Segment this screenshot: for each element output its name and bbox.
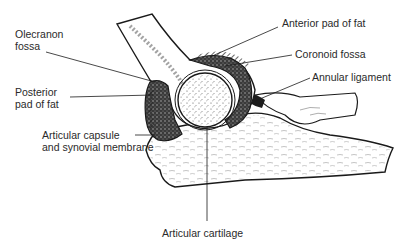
label-annular-ligament: Annular ligament xyxy=(312,71,391,83)
label-anterior-pad-line1: Anterior pad of fat xyxy=(282,17,365,29)
ulna-bone xyxy=(146,113,393,187)
label-coronoid-fossa-line1: Coronoid fossa xyxy=(295,48,366,60)
label-posterior-pad-line1: Posterior xyxy=(15,86,59,98)
label-articular-cartilage-line1: Articular cartilage xyxy=(162,227,243,239)
leader-anterior-pad xyxy=(210,27,278,57)
leader-posterior-pad xyxy=(70,95,153,97)
label-articular-cartilage: Articular cartilage xyxy=(162,227,243,239)
label-articular-capsule: Articular capsule and synovial membrane xyxy=(42,129,153,153)
label-articular-capsule-line2: and synovial membrane xyxy=(42,141,153,153)
humeral-trochlea xyxy=(175,70,235,130)
label-olecranon-fossa: Olecranon fossa xyxy=(15,28,63,52)
label-coronoid-fossa: Coronoid fossa xyxy=(295,48,366,60)
label-posterior-pad-line2: pad of fat xyxy=(15,98,59,110)
label-annular-ligament-line1: Annular ligament xyxy=(312,71,391,83)
label-posterior-pad: Posterior pad of fat xyxy=(15,86,59,110)
label-anterior-pad: Anterior pad of fat xyxy=(282,17,365,29)
label-olecranon-fossa-line1: Olecranon xyxy=(15,28,63,40)
label-articular-capsule-line1: Articular capsule xyxy=(42,129,153,141)
label-olecranon-fossa-line2: fossa xyxy=(15,40,63,52)
